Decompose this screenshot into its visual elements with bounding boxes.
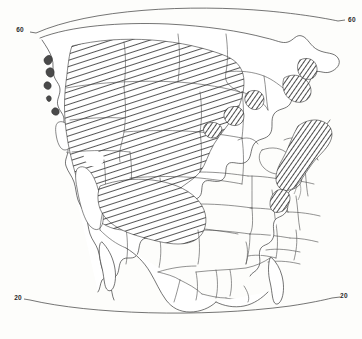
latitude-20-label-left: 20 [14, 294, 22, 301]
hatch-patch-labrador [298, 58, 318, 79]
latitude-60-label-right: 60 [348, 16, 356, 23]
north-america-map: 60 60 20 20 [0, 0, 362, 339]
island-small-south [46, 96, 51, 102]
latitude-60-label-left: 60 [16, 26, 24, 33]
map-figure: 60 60 20 20 [0, 0, 362, 339]
latitude-20-label-right: 20 [340, 292, 348, 299]
island-vancouver-north [52, 108, 60, 115]
island-small-mid [44, 82, 51, 90]
hatch-patch-ontario-east [204, 122, 222, 138]
hatch-patch-ontario-west [224, 106, 244, 125]
